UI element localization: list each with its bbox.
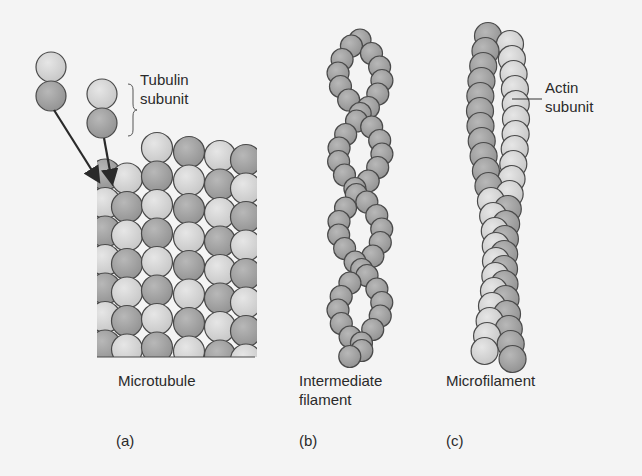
panel-b-letter: (b)	[299, 431, 317, 450]
panel-b-title-line2: filament	[299, 390, 382, 409]
panel-c-title: Microfilament	[446, 371, 535, 390]
microfilament-structure	[467, 23, 530, 373]
tubulin-label: Tubulin subunit	[140, 70, 189, 108]
tubulin-dimer-free	[36, 52, 117, 138]
actin-label-line2: subunit	[545, 97, 593, 116]
brace-icon	[128, 84, 137, 136]
panel-a-letter: (a)	[116, 431, 134, 450]
microtubule-structure	[90, 133, 262, 404]
panel-b-title: Intermediate filament	[299, 371, 382, 409]
panel-a-title: Microtubule	[118, 371, 196, 390]
intermediate-filament-structure	[327, 29, 393, 368]
actin-label-line1: Actin	[545, 78, 593, 97]
actin-label: Actin subunit	[545, 78, 593, 116]
panel-b-title-line1: Intermediate	[299, 371, 382, 390]
panel-c-letter: (c)	[446, 431, 464, 450]
tubulin-label-line1: Tubulin	[140, 70, 189, 89]
tubulin-label-line2: subunit	[140, 89, 189, 108]
